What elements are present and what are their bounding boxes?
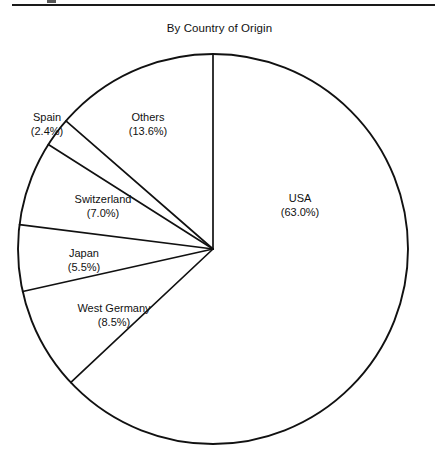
pie-slice-name: West Germany — [77, 302, 150, 314]
pie-chart-svg — [0, 0, 439, 465]
pie-slice-label: West Germany(8.5%) — [77, 302, 150, 329]
pie-slice-name: Others — [131, 111, 164, 123]
pie-slice-percent: (5.5%) — [68, 260, 100, 274]
pie-chart-figure: By Country of Origin USA(63.0%)West Germ… — [0, 0, 439, 465]
pie-slice-name: Switzerland — [75, 193, 132, 205]
pie-slice-percent: (7.0%) — [75, 206, 132, 220]
pie-slice-name: Japan — [69, 247, 99, 259]
pie-slice-name: USA — [289, 192, 312, 204]
pie-slice-label: USA(63.0%) — [281, 192, 320, 219]
pie-slice-percent: (2.4%) — [31, 124, 63, 138]
pie-slice-percent: (8.5%) — [77, 315, 150, 329]
pie-slice-name: Spain — [33, 111, 61, 123]
pie-slice-label: Others(13.6%) — [129, 111, 168, 138]
pie-slice-label: Switzerland(7.0%) — [75, 193, 132, 220]
pie-slice-label: Japan(5.5%) — [68, 247, 100, 274]
pie-slice-percent: (63.0%) — [281, 205, 320, 219]
pie-slice-label: Spain(2.4%) — [31, 111, 63, 138]
pie-slice-percent: (13.6%) — [129, 124, 168, 138]
